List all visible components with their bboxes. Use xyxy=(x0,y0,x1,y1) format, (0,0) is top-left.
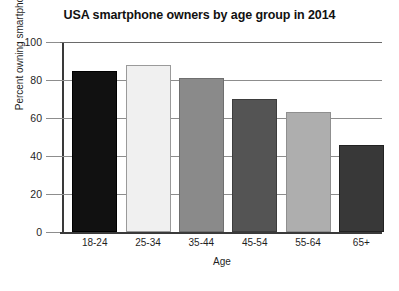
y-tick-mark-40 xyxy=(46,156,62,157)
bar-18-24 xyxy=(72,71,117,233)
bar-55-64 xyxy=(286,112,331,232)
x-tick-label-65+: 65+ xyxy=(335,237,388,248)
x-tick-label-45-54: 45-54 xyxy=(228,237,281,248)
x-tick-label-18-24: 18-24 xyxy=(68,237,121,248)
gridline-100 xyxy=(60,42,382,43)
plot-area xyxy=(62,42,382,232)
y-tick-label-40: 40 xyxy=(2,150,42,162)
y-tick-label-0: 0 xyxy=(2,226,42,238)
y-axis-ticks: 020406080100 xyxy=(0,0,62,233)
x-tick-label-35-44: 35-44 xyxy=(175,237,228,248)
y-tick-mark-80 xyxy=(46,80,62,81)
y-tick-label-20: 20 xyxy=(2,188,42,200)
y-tick-mark-20 xyxy=(46,194,62,195)
bar-35-44 xyxy=(179,78,224,232)
bar-25-34 xyxy=(126,65,171,232)
gridline-0 xyxy=(60,232,382,234)
x-tick-label-55-64: 55-64 xyxy=(281,237,334,248)
y-tick-label-60: 60 xyxy=(2,112,42,124)
bar-45-54 xyxy=(232,99,277,232)
y-tick-label-80: 80 xyxy=(2,74,42,86)
x-axis-title: Age xyxy=(62,256,382,267)
x-axis-tick-labels: 18-2425-3435-4445-5455-6465+ xyxy=(62,237,382,253)
y-tick-mark-60 xyxy=(46,118,62,119)
bar-65+ xyxy=(339,145,384,232)
y-tick-label-100: 100 xyxy=(2,36,42,48)
x-tick-label-25-34: 25-34 xyxy=(121,237,174,248)
bar-chart-figure: USA smartphone owners by age group in 20… xyxy=(0,0,399,291)
